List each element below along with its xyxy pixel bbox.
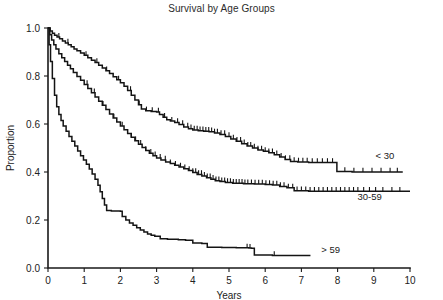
km-curve--30 bbox=[48, 28, 403, 172]
x-tick-label: 1 bbox=[81, 275, 87, 286]
x-tick-label: 0 bbox=[45, 275, 51, 286]
y-tick-label: 1.0 bbox=[26, 23, 40, 34]
y-tick-label: 0.4 bbox=[26, 167, 40, 178]
x-tick-label: 2 bbox=[118, 275, 124, 286]
y-tick-label: 0.6 bbox=[26, 119, 40, 130]
km-curve-30-59 bbox=[48, 28, 410, 191]
x-tick-label: 5 bbox=[226, 275, 232, 286]
y-tick-label: 0.0 bbox=[26, 263, 40, 274]
survival-curves bbox=[48, 28, 410, 256]
axis-titles: YearsProportion bbox=[5, 125, 242, 300]
km-curve--59 bbox=[48, 28, 310, 256]
series-label: < 30 bbox=[376, 150, 395, 161]
y-axis-title: Proportion bbox=[5, 125, 16, 171]
plot-area: 0.00.20.40.60.81.0 012345678910 < 3030-5… bbox=[0, 0, 443, 300]
x-tick-label: 6 bbox=[262, 275, 268, 286]
x-axis-ticks: 012345678910 bbox=[45, 268, 416, 286]
series-label: 30-59 bbox=[358, 191, 382, 202]
series-labels: < 3030-59> 59 bbox=[321, 150, 394, 255]
y-tick-label: 0.8 bbox=[26, 71, 40, 82]
series-label: > 59 bbox=[321, 244, 340, 255]
x-tick-label: 8 bbox=[335, 275, 341, 286]
x-tick-label: 10 bbox=[404, 275, 416, 286]
x-tick-label: 3 bbox=[154, 275, 160, 286]
x-tick-label: 9 bbox=[371, 275, 377, 286]
y-axis-ticks: 0.00.20.40.60.81.0 bbox=[26, 23, 48, 274]
y-tick-label: 0.2 bbox=[26, 215, 40, 226]
x-tick-label: 4 bbox=[190, 275, 196, 286]
axis-lines bbox=[48, 28, 410, 268]
axis-frame bbox=[48, 28, 410, 268]
x-tick-label: 7 bbox=[299, 275, 305, 286]
survival-chart: Survival by Age Groups 0.00.20.40.60.81.… bbox=[0, 0, 443, 300]
x-axis-title: Years bbox=[216, 290, 241, 300]
